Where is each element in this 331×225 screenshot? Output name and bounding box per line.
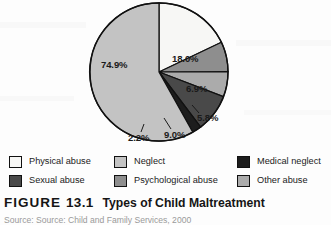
pie-label-neglect: 74.9% [101,60,127,70]
pie-label-medical-neglect: 2.2% [128,133,149,143]
legend-row: Physical abuse Neglect Medical neglect [9,154,325,169]
caption-figure-number: 13.1 [66,195,93,210]
legend-swatch-medical-neglect [237,156,250,168]
legend-item-sexual-abuse[interactable]: Sexual abuse [9,173,113,188]
figure-source-line: Source: Source: Child and Family Service… [4,216,331,225]
legend-item-other-abuse[interactable]: Other abuse [237,173,327,188]
caption-title: Types of Child Maltreatment [103,196,265,210]
pie-label-sexual-abuse: 9.0% [164,130,185,140]
figure-caption: FIGURE 13.1 Types of Child Maltreatment [4,195,331,211]
legend-item-neglect[interactable]: Neglect [114,154,234,169]
legend-label-medical-neglect: Medical neglect [257,157,321,166]
legend-label-sexual-abuse: Sexual abuse [29,176,85,185]
figure-source-text: Source: Source: Child and Family Service… [4,216,331,225]
legend-item-physical-abuse[interactable]: Physical abuse [9,154,113,169]
legend-swatch-sexual-abuse [9,175,22,187]
legend-label-psychological-abuse: Psychological abuse [134,176,218,185]
legend-item-medical-neglect[interactable]: Medical neglect [237,154,327,169]
pie-chart: 74.9% 18.0% 6.9% 5.8% 9.0% 2.2% [0,0,331,150]
legend-row: Sexual abuse Psychological abuse Other a… [9,173,325,188]
caption-figure-word: FIGURE [4,195,61,210]
legend-item-psychological-abuse[interactable]: Psychological abuse [114,173,234,188]
legend-label-physical-abuse: Physical abuse [29,157,91,166]
legend-label-neglect: Neglect [134,157,165,166]
pie-label-psychological-abuse: 6.9% [186,84,207,94]
pie-label-physical-abuse: 18.0% [172,54,198,64]
legend-label-other-abuse: Other abuse [257,176,308,185]
pie-label-other-abuse: 5.8% [197,113,218,123]
figure-13-1: 74.9% 18.0% 6.9% 5.8% 9.0% 2.2% Physical… [0,0,331,225]
legend-swatch-physical-abuse [9,156,22,168]
legend-swatch-neglect [114,156,127,168]
chart-legend: Physical abuse Neglect Medical neglect S… [9,154,325,192]
legend-swatch-psychological-abuse [114,175,127,187]
legend-swatch-other-abuse [237,175,250,187]
